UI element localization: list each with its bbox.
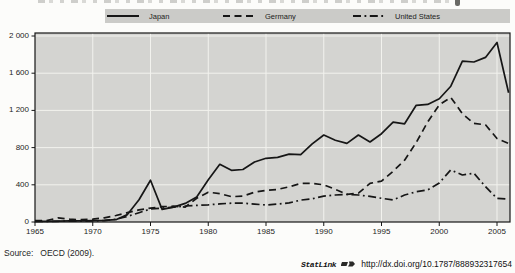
x-tick-label: 1965	[20, 227, 50, 237]
source-note: Source:OECD (2009).	[4, 248, 94, 258]
legend-label-japan: Japan	[149, 12, 169, 21]
x-tick-label: 1990	[309, 227, 339, 237]
x-tick-label: 1980	[193, 227, 223, 237]
y-tick-label: 1 200	[1, 105, 29, 115]
statlink-logo-text: StatLink	[301, 260, 336, 269]
y-tick-label: 400	[1, 180, 29, 190]
x-tick-label: 1975	[136, 227, 166, 237]
legend-item-germany: Germany	[222, 9, 296, 23]
chart-legend: Japan Germany United States	[105, 9, 510, 23]
statlink-row: StatLink http://dx.doi.org/10.1787/88893…	[301, 259, 512, 269]
y-tick-label: 800	[1, 143, 29, 153]
x-tick-label: 2005	[482, 227, 512, 237]
source-label: Source:	[4, 248, 33, 258]
y-tick-label: 1 600	[1, 68, 29, 78]
statlink-url[interactable]: http://dx.doi.org/10.1787/888932317654	[361, 259, 512, 269]
cropped-page-title	[38, 0, 462, 3]
source-value: OECD (2009).	[40, 248, 94, 258]
figure-page: { "chart_data": { "type": "line", "x": […	[0, 0, 515, 273]
y-tick-label: 0	[1, 217, 29, 227]
japan-solid-line-sample	[106, 11, 140, 21]
germany-dashed-line-sample	[222, 11, 256, 21]
statlink-icon	[341, 260, 356, 268]
united-states-dashdot-line-sample	[352, 11, 386, 21]
legend-item-japan: Japan	[106, 9, 169, 23]
legend-item-united-states: United States	[352, 9, 440, 23]
y-tick-label: 2 000	[1, 31, 29, 41]
legend-label-united-states: United States	[395, 12, 440, 21]
x-tick-label: 1995	[367, 227, 397, 237]
x-tick-label: 1985	[251, 227, 281, 237]
x-tick-label: 1970	[78, 227, 108, 237]
line-chart-plot	[31, 32, 515, 227]
x-tick-label: 2000	[424, 227, 454, 237]
cropped-title-descender	[455, 0, 460, 6]
legend-label-germany: Germany	[265, 12, 296, 21]
